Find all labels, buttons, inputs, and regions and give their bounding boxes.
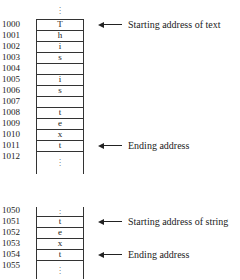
ellipsis-top: ···	[36, 6, 84, 15]
memory-cell	[36, 96, 84, 107]
address-label: 1050	[2, 205, 30, 216]
address-label: 1002	[2, 41, 30, 52]
end-label: Ending address	[128, 249, 189, 260]
memory-cell: x	[36, 238, 84, 249]
address-label: 1007	[2, 96, 30, 107]
address-label: 1009	[2, 118, 30, 129]
address-label: 1000	[2, 19, 30, 30]
memory-cell: x	[36, 129, 84, 140]
cell-divider	[36, 151, 84, 152]
memory-cell: i	[36, 74, 84, 85]
address-label: 1054	[2, 249, 30, 260]
memory-cell: T	[36, 19, 84, 30]
memory-cell: t	[36, 107, 84, 118]
memory-cell: e	[36, 227, 84, 238]
ellipsis-bottom: ···	[36, 158, 84, 167]
end-label: Ending address	[128, 140, 189, 151]
memory-cell	[36, 63, 84, 74]
start-pointer: Starting address of string	[98, 216, 228, 227]
address-label: 1010	[2, 129, 30, 140]
address-label: 1053	[2, 238, 30, 249]
address-label: 1011	[2, 140, 30, 151]
memory-cell: h	[36, 30, 84, 41]
start-pointer: Starting address of text	[98, 19, 220, 30]
address-label: 1001	[2, 30, 30, 41]
start-label: Starting address of text	[128, 19, 220, 30]
memory-cell: t	[36, 140, 84, 151]
address-label: 1005	[2, 74, 30, 85]
end-pointer: Ending address	[98, 140, 189, 151]
memory-cell: s	[36, 52, 84, 63]
address-label: 1012	[2, 151, 30, 162]
address-label: 1006	[2, 85, 30, 96]
memory-cell: t	[36, 216, 84, 227]
start-label: Starting address of string	[128, 216, 228, 227]
memory-cell: s	[36, 85, 84, 96]
memory-cell: i	[36, 41, 84, 52]
end-pointer: Ending address	[98, 249, 189, 260]
address-label: 1051	[2, 216, 30, 227]
address-label: 1008	[2, 107, 30, 118]
address-label: 1003	[2, 52, 30, 63]
ellipsis-bottom: ···	[36, 266, 84, 275]
address-label: 1055	[2, 260, 30, 271]
address-label: 1052	[2, 227, 30, 238]
address-label: 1004	[2, 63, 30, 74]
memory-cell: t	[36, 249, 84, 260]
cell-divider	[36, 260, 84, 261]
memory-cell: e	[36, 118, 84, 129]
